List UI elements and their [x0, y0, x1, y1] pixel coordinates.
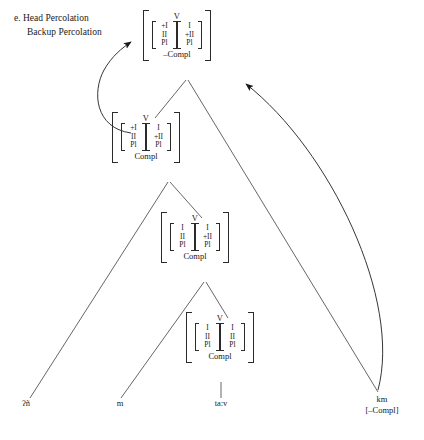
right-feature-column: I II Pl	[220, 323, 245, 351]
leaf-node-3: taːv	[215, 398, 228, 409]
feature-columns: I II Pl I +II Pl	[170, 223, 220, 251]
leaf-feature-label: [–Compl]	[365, 405, 398, 416]
feature-columns: +I II Pl I +II Pl	[152, 21, 202, 49]
feature-columns: +I II Pl I +II Pl	[121, 123, 171, 151]
left-feature-column: I II Pl	[170, 223, 195, 251]
caption-line-1: e. Head Percolation	[14, 12, 102, 26]
feature-cell: Pl	[151, 141, 166, 150]
node-head-label: V	[195, 313, 245, 323]
caption-line-2: Backup Percolation	[14, 26, 102, 40]
node-foot-label: Compl	[170, 251, 220, 262]
node-head-label: V	[152, 11, 202, 21]
outer-bracket: V +I II Pl I +II Pl Compl	[112, 112, 180, 163]
right-feature-column: I +II Pl	[146, 123, 171, 151]
leaf-label: taːv	[215, 398, 228, 408]
right-feature-column: I +II Pl	[177, 21, 202, 49]
outer-bracket: V I II Pl I +II Pl Compl	[161, 212, 229, 263]
figure-caption: e. Head Percolation Backup Percolation	[14, 12, 102, 39]
node-head-label: V	[170, 213, 220, 223]
node-foot-label: –Compl	[152, 49, 202, 60]
branch-node2-leaf1	[30, 182, 168, 398]
outer-bracket: V +I II Pl I +II Pl –Compl	[143, 10, 211, 61]
feature-cell: Pl	[182, 39, 197, 48]
feature-cell: Pl	[175, 241, 190, 250]
feature-cell: Pl	[157, 39, 172, 48]
feature-cell: Pl	[200, 241, 215, 250]
node-head-label: V	[121, 113, 171, 123]
leaf-label: km	[377, 394, 388, 404]
backup-percolation-arrow	[246, 84, 383, 390]
node-foot-label: Compl	[121, 151, 171, 162]
matrix-node-2: V +I II Pl I +II Pl Compl	[112, 112, 180, 163]
left-feature-column: I II Pl	[195, 323, 220, 351]
feature-columns: I II Pl I II Pl	[195, 323, 245, 351]
left-feature-column: +I II Pl	[121, 123, 146, 151]
feature-cell: Pl	[126, 141, 141, 150]
leaf-node-1: ʔñ	[22, 398, 30, 409]
leaf-label: ʔñ	[22, 398, 30, 408]
node-foot-label: Compl	[195, 351, 245, 362]
feature-cell: Pl	[200, 341, 215, 350]
feature-cell: Pl	[225, 341, 240, 350]
leaf-label: m	[117, 398, 124, 408]
matrix-node-3: V I II Pl I +II Pl Compl	[161, 212, 229, 263]
left-feature-column: +I II Pl	[152, 21, 177, 49]
outer-bracket: V I II Pl I II Pl Compl	[186, 312, 254, 363]
right-feature-column: I +II Pl	[195, 223, 220, 251]
matrix-node-1: V +I II Pl I +II Pl –Compl	[143, 10, 211, 61]
leaf-node-2: m	[117, 398, 124, 409]
matrix-node-4: V I II Pl I II Pl Compl	[186, 312, 254, 363]
leaf-node-4: km [–Compl]	[365, 394, 398, 416]
